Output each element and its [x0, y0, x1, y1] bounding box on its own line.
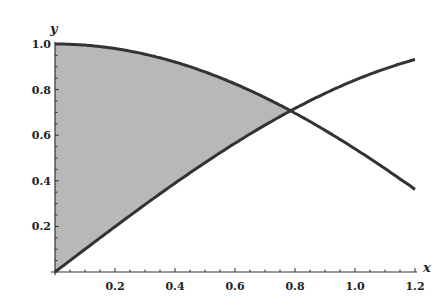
x-tick-label: 1.0: [345, 280, 364, 293]
x-tick-label: 0.2: [105, 280, 124, 293]
x-tick-label: 0.6: [225, 280, 244, 293]
x-tick-label: 0.4: [165, 280, 184, 293]
shaded-region: [55, 44, 291, 272]
x-tick-label: 0.8: [285, 280, 304, 293]
y-tick-label: 0.8: [32, 84, 51, 97]
y-tick-label: 0.4: [32, 175, 51, 188]
y-tick-label: 1.0: [32, 38, 51, 51]
chart: 0.20.40.60.81.01.20.20.40.60.81.0 x y: [0, 0, 446, 308]
y-tick-label: 0.2: [32, 220, 51, 233]
y-axis-label: y: [49, 21, 59, 36]
y-tick-label: 0.6: [32, 129, 51, 142]
x-tick-label: 1.2: [405, 280, 424, 293]
x-axis-label: x: [422, 260, 431, 275]
